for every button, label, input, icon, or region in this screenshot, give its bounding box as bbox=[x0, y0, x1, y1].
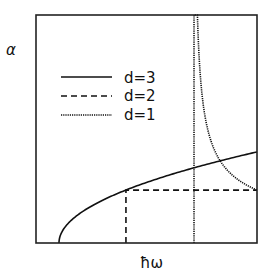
legend: d=3 d=2 d=1 bbox=[61, 69, 156, 124]
legend-label-d2: d=2 bbox=[124, 87, 156, 105]
plot-area bbox=[59, 15, 257, 243]
series-d2 bbox=[126, 190, 257, 243]
y-axis-label: α bbox=[6, 41, 16, 59]
series-d3 bbox=[59, 152, 257, 243]
legend-label-d3: d=3 bbox=[124, 69, 156, 87]
legend-label-d1: d=1 bbox=[124, 106, 156, 124]
series-d1 bbox=[194, 15, 257, 243]
x-axis-label: ħω bbox=[140, 254, 163, 272]
plot-frame bbox=[36, 15, 257, 243]
absorption-chart: α ħω d=3 d=2 d=1 bbox=[0, 0, 265, 279]
